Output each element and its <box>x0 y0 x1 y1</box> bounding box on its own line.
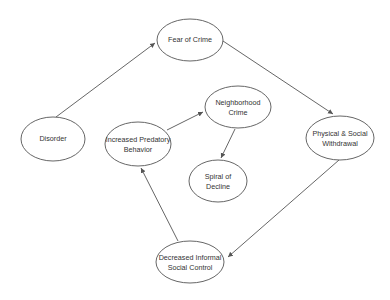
node-label-line: Spiral of <box>205 172 231 182</box>
node-label-line: Fear of Crime <box>168 35 212 45</box>
node-label-spiral-of-decline: Spiral of Decline <box>205 172 231 191</box>
node-label-disorder: Disorder <box>39 134 66 144</box>
arrow-disorder-to-fear <box>56 43 155 117</box>
node-label-physical-social-withdrawal: Physical & Social Withdrawal <box>312 129 367 148</box>
node-label-line: Social Control <box>159 262 222 272</box>
node-label-neighborhood-crime: Neighborhood Crime <box>215 98 260 117</box>
node-label-line: Physical & Social <box>312 129 367 139</box>
node-label-line: Disorder <box>39 134 66 144</box>
node-label-line: Crime <box>215 107 260 117</box>
nodes-layer <box>21 19 374 283</box>
arrow-control-to-predatory <box>141 168 178 241</box>
node-label-increased-predatory-behavior: Increased Predatory Behavior <box>106 135 171 154</box>
arrow-predatory-to-neighborhood <box>167 112 203 130</box>
node-label-line: Neighborhood <box>215 98 260 108</box>
node-label-line: Withdrawal <box>312 138 367 148</box>
edges-layer <box>56 41 339 257</box>
node-label-line: Decline <box>205 181 231 191</box>
node-label-line: Increased Predatory <box>106 135 171 145</box>
node-label-line: Behavior <box>106 144 171 154</box>
arrow-neighborhood-to-spiral <box>221 129 235 158</box>
node-label-fear-of-crime: Fear of Crime <box>168 35 212 45</box>
node-label-decreased-informal-social-control: Decreased Informal Social Control <box>159 253 222 272</box>
node-label-line: Decreased Informal <box>159 253 222 263</box>
